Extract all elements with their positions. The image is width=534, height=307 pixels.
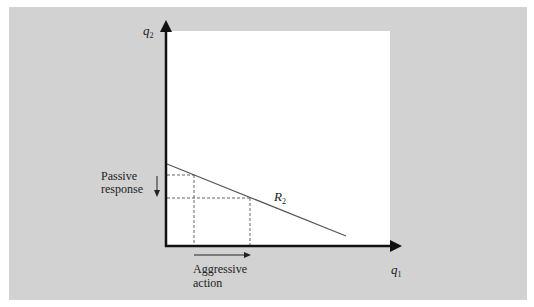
y-axis-arrow-icon [160, 20, 172, 32]
down-arrow-icon [154, 190, 160, 197]
passive-response-label: Passive response [101, 170, 143, 196]
aggressive-line-2: action [193, 276, 247, 290]
passive-line-2: response [101, 183, 143, 196]
plot-area [167, 31, 390, 246]
aggressive-action-label: Aggressive action [193, 262, 247, 290]
right-arrow-icon [244, 252, 251, 258]
curve-label: R2 [274, 189, 286, 206]
x-axis-arrow-icon [390, 240, 402, 252]
diagram-canvas [0, 0, 534, 307]
y-axis-label: q2 [143, 23, 154, 40]
x-axis-label: q1 [391, 262, 402, 279]
aggressive-line-1: Aggressive [193, 262, 247, 276]
